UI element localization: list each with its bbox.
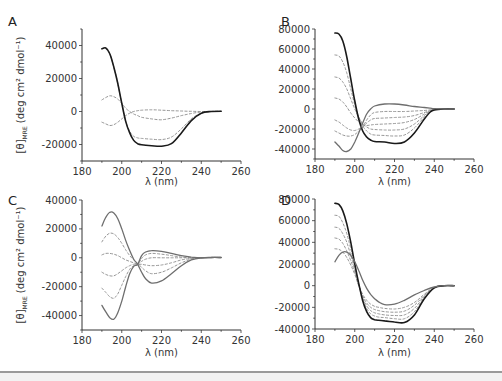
panel-label: C [8,193,17,208]
x-axis-label: λ (nm) [378,347,411,358]
series-line-dashed-4 [102,253,221,298]
x-tick-label: 260 [464,164,483,175]
y-tick-label: 20000 [278,259,310,270]
series-line-dashed-4 [335,109,454,131]
y-tick-label: 20000 [278,84,310,95]
x-tick-label: 240 [192,335,211,346]
series-line-solid-grey [335,252,454,305]
y-tick-label: 0 [71,106,77,117]
y-axis-label: [θ]MRE (deg cm² dmol⁻¹) [15,207,28,324]
y-tick-label: 40000 [45,40,77,51]
x-tick-label: 200 [112,166,131,177]
y-tick-label: -20000 [42,281,77,292]
x-tick-label: 180 [72,335,91,346]
series-line-dashed-3 [102,257,221,276]
y-tick-label: 0 [71,252,77,263]
series-line-dashed-1 [102,233,221,274]
chart-panel-c: C-40000-2000002000040000180200220240260λ… [8,193,251,358]
panel-label: A [8,14,17,29]
x-axis-label: λ (nm) [378,176,411,187]
series-line-solid-bottom [102,251,221,320]
x-tick-label: 240 [192,166,211,177]
y-tick-label: 20000 [45,73,77,84]
series-line-solid [102,48,221,147]
y-tick-label: -20000 [42,139,77,150]
series-line-dashed-2 [335,227,454,315]
y-tick-label: 40000 [278,64,310,75]
chart-panel-a: A-2000002000040000180200220240260λ (nm)[… [8,14,251,187]
x-tick-label: 260 [231,335,250,346]
series-line-solid-grey [335,104,454,152]
series-line-dashed-1 [102,96,221,120]
x-tick-label: 220 [152,335,171,346]
series-line-dashed-2 [102,253,221,265]
bottom-band [0,373,502,381]
figure-canvas: A-2000002000040000180200220240260λ (nm)[… [0,0,502,381]
x-tick-label: 180 [305,334,324,345]
x-tick-label: 180 [305,164,324,175]
series-line-dashed-5 [335,109,454,136]
series-line-solid-dark [335,203,454,323]
y-tick-label: 40000 [278,237,310,248]
y-tick-label: 0 [304,280,310,291]
y-tick-label: 20000 [45,223,77,234]
y-tick-label: -40000 [42,310,77,321]
x-tick-label: 240 [425,164,444,175]
series-line-solid-dark [335,33,454,144]
x-tick-label: 200 [345,334,364,345]
y-tick-label: -40000 [275,324,310,335]
y-axis-label: [θ]MRE (deg cm² dmol⁻¹) [15,37,28,154]
y-tick-label: 60000 [278,44,310,55]
x-tick-label: 240 [425,334,444,345]
x-tick-label: 220 [385,334,404,345]
x-tick-label: 200 [112,335,131,346]
y-tick-label: -20000 [275,302,310,313]
x-tick-label: 260 [464,334,483,345]
x-axis-label: λ (nm) [145,347,178,358]
y-tick-label: 80000 [278,194,310,205]
x-tick-label: 220 [385,164,404,175]
x-tick-label: 260 [231,166,250,177]
x-axis-label: λ (nm) [145,176,178,187]
y-tick-label: -20000 [275,124,310,135]
y-tick-label: 80000 [278,24,310,35]
y-tick-label: 0 [304,104,310,115]
y-tick-label: 40000 [45,195,77,206]
chart-panel-d: D-40000-20000020000400006000080000180200… [275,193,484,358]
chart-panel-b: B-40000-20000020000400006000080000180200… [275,14,484,187]
x-tick-label: 180 [72,166,91,177]
y-tick-label: -40000 [275,144,310,155]
x-tick-label: 200 [345,164,364,175]
y-tick-label: 60000 [278,215,310,226]
